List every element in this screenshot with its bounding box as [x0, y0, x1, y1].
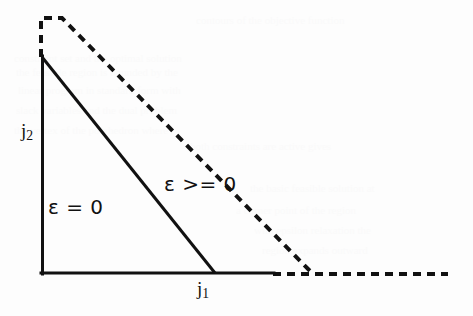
axis-label-j1-subscript: 1: [202, 286, 209, 301]
axis-label-j2: j2: [21, 121, 33, 143]
axis-label-j1: j1: [197, 279, 209, 301]
region-label-epsilon-equals-zero: ε = 0: [48, 197, 104, 217]
region-label-epsilon-ge-zero: ε >= 0: [164, 174, 237, 194]
diagram-canvas: [0, 0, 473, 316]
solid-hypotenuse-line: [42, 57, 215, 273]
figure-root: contours of the objective function const…: [0, 0, 473, 316]
dashed-outer-boundary-line: [41, 18, 313, 274]
axis-label-j2-subscript: 2: [26, 128, 33, 143]
